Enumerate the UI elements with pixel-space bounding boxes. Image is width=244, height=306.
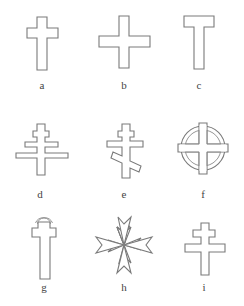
cross-g-arched-latin-icon bbox=[32, 218, 56, 279]
label-b: b bbox=[121, 79, 127, 91]
cross-c-tau-icon bbox=[184, 16, 214, 69]
cross-h-maltese-icon bbox=[96, 217, 152, 273]
cross-i-lorraine-icon bbox=[185, 223, 225, 275]
cross-e-orthodox-icon bbox=[107, 124, 143, 178]
label-g: g bbox=[41, 281, 47, 293]
cross-d-papal-icon bbox=[16, 124, 68, 175]
cross-a-latin-icon bbox=[27, 17, 58, 70]
label-a: a bbox=[40, 79, 45, 91]
cross-b-greek-icon bbox=[99, 16, 150, 68]
label-h: h bbox=[121, 281, 127, 293]
label-f: f bbox=[201, 188, 205, 200]
label-c: c bbox=[197, 79, 202, 91]
label-e: e bbox=[122, 188, 127, 200]
crosses-figure: a b c d e f g h bbox=[0, 0, 244, 306]
label-d: d bbox=[37, 188, 43, 200]
label-i: i bbox=[202, 281, 205, 293]
cross-f-celtic-icon bbox=[178, 123, 228, 174]
